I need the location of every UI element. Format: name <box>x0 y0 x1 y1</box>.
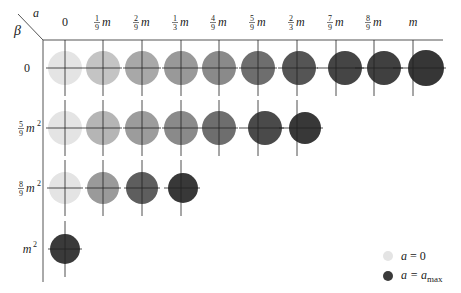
legend-eq: = 0 <box>407 249 426 263</box>
svg-text:2: 2 <box>37 119 41 128</box>
grid-cell-r2-c2 <box>124 160 160 216</box>
column-header-4: 49m <box>210 14 227 32</box>
svg-text:2: 2 <box>37 179 41 188</box>
grid-cell-r3-c0 <box>48 221 82 277</box>
svg-text:5: 5 <box>19 120 23 129</box>
svg-text:m: m <box>373 15 382 29</box>
grid-cell-r0-c1 <box>84 40 122 96</box>
legend-item-max: a = amax <box>383 266 461 286</box>
svg-text:2: 2 <box>289 14 293 23</box>
legend: a = 0 a = amax <box>383 246 461 290</box>
grid-cell-r1-c4 <box>200 100 238 156</box>
svg-text:7: 7 <box>328 14 332 23</box>
svg-text:m: m <box>141 15 150 29</box>
svg-text:8: 8 <box>366 14 370 23</box>
svg-text:2: 2 <box>33 240 37 249</box>
svg-text:m: m <box>409 15 418 29</box>
grid-cell-r2-c3 <box>164 160 200 216</box>
svg-text:9: 9 <box>95 23 99 32</box>
svg-text:9: 9 <box>328 23 332 32</box>
svg-text:m: m <box>257 15 266 29</box>
column-header-9: m <box>409 15 418 29</box>
svg-text:9: 9 <box>19 129 23 138</box>
legend-sub: max <box>427 274 443 284</box>
grid-cell-r2-c0 <box>47 160 83 216</box>
row-header-2: 89m2 <box>18 179 41 198</box>
grid-cell-r1-c0 <box>46 100 84 156</box>
svg-text:m: m <box>26 121 35 135</box>
svg-text:0: 0 <box>62 15 68 29</box>
svg-text:m: m <box>335 15 344 29</box>
column-header-5: 59m <box>249 14 266 32</box>
dark-dot-icon <box>383 271 393 281</box>
column-header-2: 29m <box>133 14 150 32</box>
legend-item-min: a = 0 <box>383 246 461 266</box>
row-header-0: 0 <box>24 61 30 75</box>
grid-cell-r0-c5 <box>239 40 277 96</box>
svg-text:m: m <box>296 15 305 29</box>
svg-text:9: 9 <box>134 23 138 32</box>
svg-text:m: m <box>218 15 227 29</box>
beta-axis-label: β <box>13 23 21 38</box>
svg-text:9: 9 <box>19 189 23 198</box>
svg-text:9: 9 <box>366 23 370 32</box>
legend-label-max: a = amax <box>401 268 443 284</box>
svg-text:3: 3 <box>173 23 177 32</box>
column-header-0: 0 <box>62 15 68 29</box>
grid-cell-r1-c6 <box>279 100 323 156</box>
row-header-1: 59m2 <box>18 119 41 138</box>
grid-cell-r1-c3 <box>162 100 200 156</box>
svg-text:9: 9 <box>250 23 254 32</box>
svg-text:8: 8 <box>19 180 23 189</box>
grid-cell-r1-c1 <box>84 100 122 156</box>
svg-text:0: 0 <box>24 61 30 75</box>
svg-text:m: m <box>26 181 35 195</box>
grid-cell-r1-c5 <box>239 100 284 156</box>
grid-cell-r0-c3 <box>162 40 200 96</box>
light-dot-icon <box>383 251 393 261</box>
column-header-3: 13m <box>172 14 189 32</box>
svg-text:1: 1 <box>173 14 177 23</box>
svg-text:2: 2 <box>134 14 138 23</box>
corner-diagonal <box>18 14 43 40</box>
column-header-7: 79m <box>327 14 344 32</box>
svg-text:4: 4 <box>211 14 215 23</box>
svg-text:3: 3 <box>289 23 293 32</box>
column-header-8: 89m <box>365 14 382 32</box>
svg-text:9: 9 <box>211 23 215 32</box>
grid-cell-r2-c1 <box>85 160 121 216</box>
legend-label-min: a = 0 <box>401 249 426 264</box>
column-header-1: 19m <box>94 14 111 32</box>
grid-cell-r0-c4 <box>200 40 238 96</box>
row-header-3: m2 <box>23 240 37 256</box>
alpha-axis-label: a <box>33 6 39 20</box>
grid-cell-r0-c0 <box>46 40 84 96</box>
svg-text:1: 1 <box>95 14 99 23</box>
grid-cell-r1-c2 <box>123 100 161 156</box>
legend-eq: = a <box>407 268 427 282</box>
svg-text:m: m <box>102 15 111 29</box>
svg-text:5: 5 <box>250 14 254 23</box>
grid-cell-r0-c2 <box>123 40 161 96</box>
grid-cell-r0-c9 <box>393 40 446 96</box>
grid-cell-r0-c6 <box>278 40 318 96</box>
svg-text:m: m <box>180 15 189 29</box>
column-header-6: 23m <box>288 14 305 32</box>
svg-text:m: m <box>23 242 32 256</box>
